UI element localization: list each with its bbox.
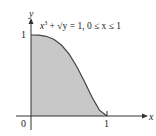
- equation-rest: + √y = 1, 0 ≤ x ≤ 1: [47, 21, 121, 31]
- equation-label: x3 + √y = 1, 0 ≤ x ≤ 1: [39, 20, 121, 31]
- area-chart: y x 0 1 1 x3 + √y = 1, 0 ≤ x ≤ 1: [0, 0, 156, 136]
- x-axis-label: x: [148, 111, 154, 122]
- x-tick-label-1: 1: [104, 118, 109, 129]
- x-axis-arrow-icon: [142, 114, 148, 119]
- y-tick-label-1: 1: [21, 29, 26, 40]
- origin-label: 0: [21, 118, 26, 129]
- y-axis-label: y: [28, 8, 34, 19]
